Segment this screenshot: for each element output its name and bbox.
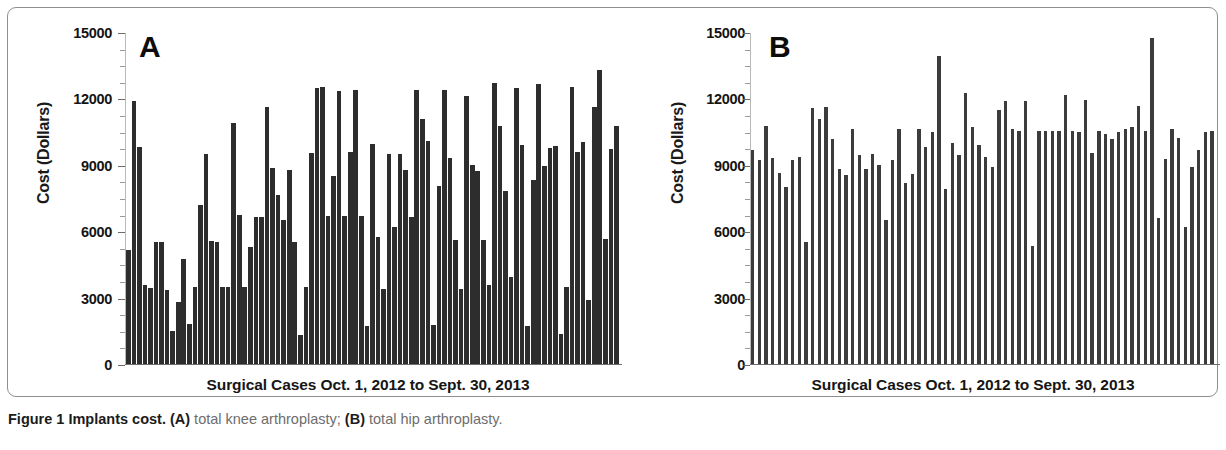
bar [304,287,309,365]
bar [231,123,236,364]
bar [1090,153,1093,364]
bar [276,195,281,364]
bar [470,165,475,364]
bar [198,205,203,364]
bar [193,287,198,365]
bar [548,148,553,364]
panel-a-y-tick-6000: 6000 [50,224,112,240]
bar [536,84,541,364]
panel-a-minor-tick [120,332,125,333]
bar [292,242,297,364]
bar [1097,131,1100,365]
panel-b-minor-tick [745,332,750,333]
panel-b-tick-mark-0 [743,365,750,366]
caption-text-b: total hip arthroplasty. [365,411,503,427]
bar [884,220,887,364]
bar [891,160,894,364]
panel-b-x-axis-line [750,364,1220,365]
bar [431,325,436,364]
bar [771,158,774,364]
bar [858,155,861,364]
bar [420,119,425,364]
bar [831,139,834,364]
bar [287,170,292,364]
bar [326,216,331,364]
panel-b-minor-tick [745,83,750,84]
bar [509,277,514,364]
bar [514,88,519,364]
bar [525,326,530,364]
panel-a-tick-mark-6000 [118,232,125,233]
figure-frame: Cost (Dollars) 03000600090001200015000 A… [7,7,1218,397]
bar [871,154,874,364]
bar [924,147,927,364]
bar [1104,134,1107,364]
panel-a-y-tick-12000: 12000 [50,91,112,107]
bar [758,160,761,364]
bar [204,154,209,364]
bar [1190,167,1193,364]
bar [592,107,597,364]
bar [984,157,987,364]
bar [838,169,841,364]
panel-a-y-tick-labels: 03000600090001200015000 [50,8,112,398]
bar [991,167,994,364]
panel-b-y-tick-9000: 9000 [683,158,745,174]
bar [398,154,403,364]
bar [798,157,801,364]
bar [904,183,907,365]
panel-b-minor-tick [745,199,750,200]
bar [1064,95,1067,364]
bar [1057,131,1060,365]
caption-marker-a: (A) [170,411,190,427]
panel-b-minor-tick [745,249,750,250]
bar [1004,101,1007,364]
bar [453,240,458,364]
panel-a-y-tick-0: 0 [50,357,112,373]
panel-a-tick-mark-15000 [118,33,125,34]
bar [342,216,347,364]
bar [851,129,854,364]
bar [475,171,480,364]
panel-a-tick-mark-0 [118,365,125,366]
panel-b-y-tick-0: 0 [683,357,745,373]
bar [376,237,381,364]
bar [281,220,286,364]
bar [259,217,264,364]
panel-b-tick-mark-6000 [743,232,750,233]
panel-a-x-axis-line [125,364,622,365]
bar [897,129,900,364]
panel-b-minor-tick [745,282,750,283]
bar [864,169,867,364]
bar [911,174,914,364]
panel-b-y-tick-6000: 6000 [683,224,745,240]
bar [359,216,364,364]
panel-b-tick-mark-12000 [743,99,750,100]
panel-b-minor-tick [745,265,750,266]
bar [154,242,159,364]
bar [409,217,414,364]
bar [997,110,1000,365]
bar [498,126,503,364]
bar [581,142,586,364]
bar [603,239,608,364]
bar [937,56,940,364]
panel-b-minor-tick [745,66,750,67]
bar [1170,129,1173,364]
bar [1044,131,1047,365]
bar [209,241,214,364]
bar [1011,129,1014,364]
figure-root: Cost (Dollars) 03000600090001200015000 A… [0,0,1226,450]
bar [877,165,880,364]
panel-b-minor-tick [745,133,750,134]
bar [964,93,967,364]
bar [917,129,920,364]
panel-b-minor-tick [745,149,750,150]
bar [1144,131,1147,365]
panel-b-minor-tick [745,182,750,183]
bar [586,300,591,364]
panel-a-minor-tick [120,282,125,283]
bar [414,90,419,365]
bar [315,88,320,364]
bar [1177,138,1180,364]
